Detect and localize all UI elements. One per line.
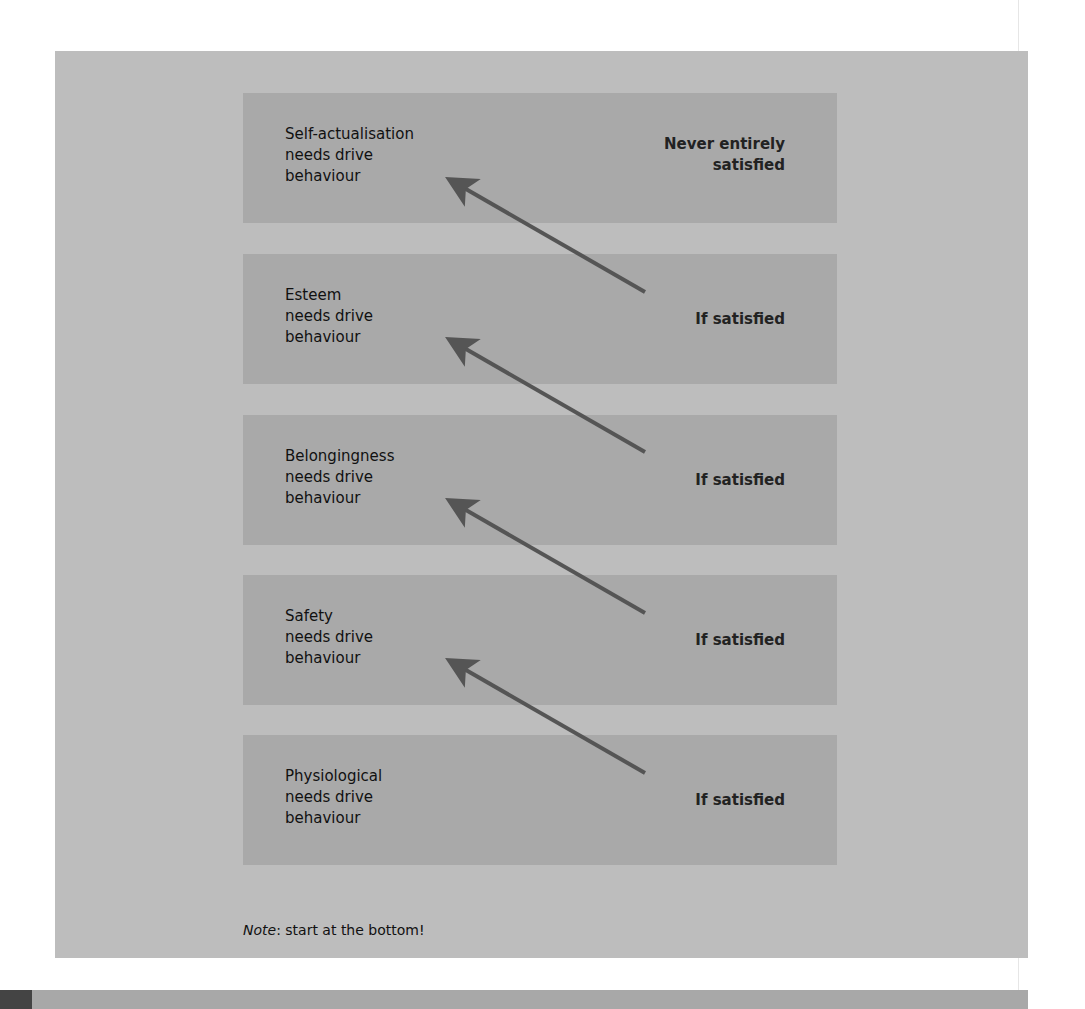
progression-arrows <box>0 0 1085 1009</box>
note-prefix: Note <box>243 922 276 938</box>
section-marker <box>0 990 32 1009</box>
arrow-icon <box>452 341 645 452</box>
arrow-icon <box>452 502 645 613</box>
note-text: : start at the bottom! <box>276 922 424 938</box>
section-header-bar <box>32 990 1028 1009</box>
diagram-note: Note: start at the bottom! <box>243 922 425 938</box>
arrow-icon <box>452 662 645 773</box>
arrow-icon <box>452 181 645 292</box>
